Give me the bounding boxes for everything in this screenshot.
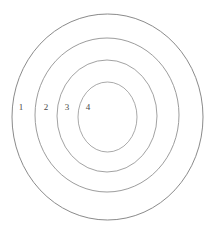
ring-3-outline	[57, 60, 157, 172]
ring-2-label: 2	[44, 102, 49, 112]
rings-canvas: 1 2 3 4	[0, 0, 217, 234]
ring-1-outer-outline	[12, 14, 203, 220]
ring-4-inner-outline	[78, 82, 137, 152]
ring-4-label: 4	[86, 102, 91, 112]
concentric-rings-diagram: 1 2 3 4	[0, 0, 217, 234]
ring-3-label: 3	[65, 102, 70, 112]
ring-1-label: 1	[19, 102, 24, 112]
